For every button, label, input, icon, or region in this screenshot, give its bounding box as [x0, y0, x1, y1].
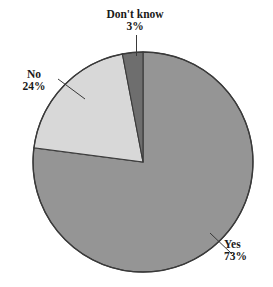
pie-label-yes: Yes 73%: [224, 238, 270, 262]
pie-label-dont-know-value: 3%: [88, 20, 182, 32]
pie-label-no-name: No: [8, 68, 60, 80]
pie-chart-figure: Don't know 3% No 24% Yes 73%: [0, 0, 273, 287]
pie-label-dont-know: Don't know 3%: [88, 8, 182, 32]
pie-label-no: No 24%: [8, 68, 60, 92]
pie-label-no-value: 24%: [8, 80, 60, 92]
pie-label-yes-name: Yes: [224, 238, 270, 250]
pie-label-yes-value: 73%: [224, 250, 270, 262]
pie-label-dont-know-name: Don't know: [88, 8, 182, 20]
